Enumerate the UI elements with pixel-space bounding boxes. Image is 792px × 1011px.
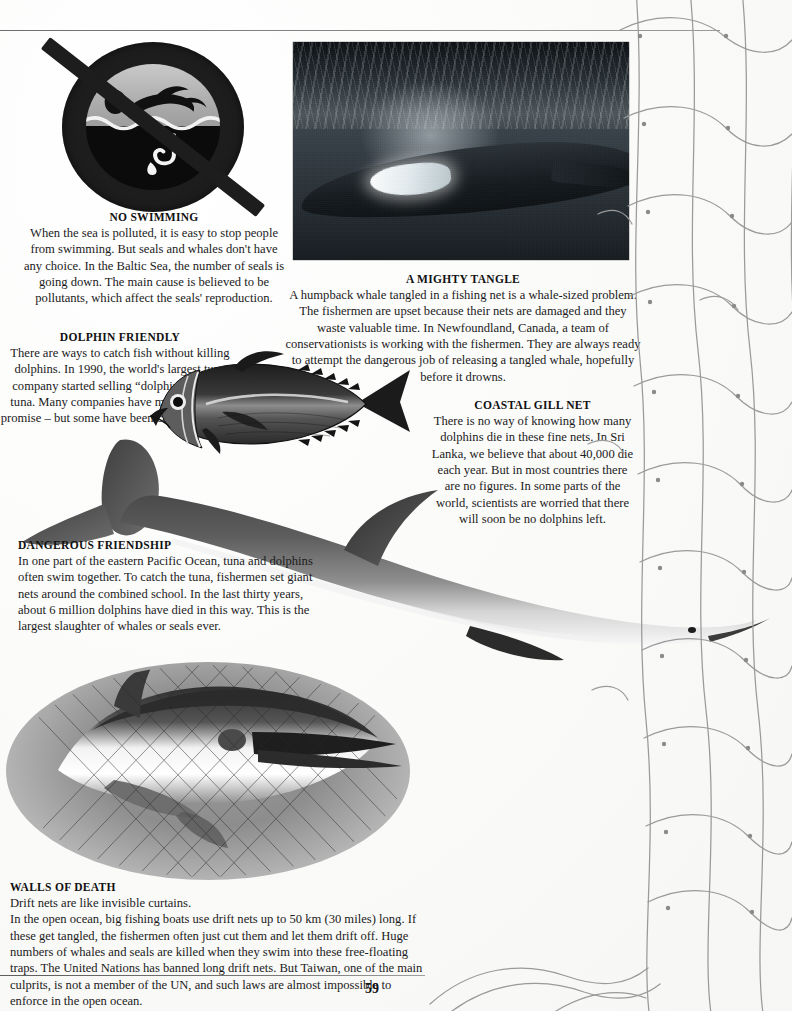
heading-dolphin-friendly: DOLPHIN FRIENDLY [0,330,240,345]
no-swimming-sign-icon [62,42,244,212]
heading-mighty-tangle: A MIGHTY TANGLE [285,272,641,287]
netted-dolphin-photo [6,662,410,880]
humpback-whale-photo [293,42,629,260]
heading-dangerous-friendship: DANGEROUS FRIENDSHIP [18,538,318,553]
dolphin-eye [688,627,696,633]
dolphin-dorsal-fin [344,490,438,566]
heading-walls-of-death: WALLS OF DEATH [10,880,430,895]
section-dangerous-friendship: DANGEROUS FRIENDSHIP In one part of the … [18,538,318,635]
photo-grain [293,42,629,260]
bottom-rule [0,975,425,976]
heading-coastal-gill-net: COASTAL GILL NET [430,398,635,413]
body-dangerous-friendship: In one part of the eastern Pacific Ocean… [18,553,318,635]
oval-vignette [6,662,410,880]
section-no-swimming: NO SWIMMING When the sea is polluted, it… [20,210,288,307]
heading-no-swimming: NO SWIMMING [20,210,288,225]
page-canvas: NO SWIMMING When the sea is polluted, it… [0,0,792,1011]
netted-dolphin-figure [6,662,410,880]
top-rule [0,30,720,31]
body-no-swimming: When the sea is polluted, it is easy to … [20,225,288,307]
page-number: 59 [352,981,392,997]
